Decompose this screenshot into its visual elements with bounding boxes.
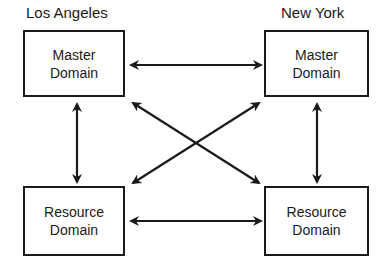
connector-arrows <box>0 0 391 270</box>
